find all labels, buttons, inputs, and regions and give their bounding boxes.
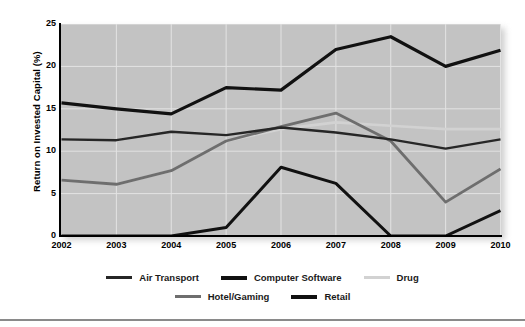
legend-label: Air Transport [139,272,199,283]
chart-svg [61,24,501,236]
legend-item[interactable]: Drug [364,272,419,283]
legend-item[interactable]: Retail [291,291,350,302]
legend-swatch [291,295,317,299]
x-tick-label: 2007 [313,240,359,250]
y-tick-label: 15 [20,103,56,113]
y-tick-label: 20 [20,60,56,70]
legend-item[interactable]: Hotel/Gaming [175,291,270,302]
x-tick-label: 2008 [368,240,414,250]
legend-swatch [106,276,132,279]
legend-row-2: Hotel/GamingRetail [0,287,525,306]
legend-item[interactable]: Computer Software [221,272,342,283]
legend-label: Drug [397,272,419,283]
legend-label: Retail [324,291,350,302]
x-tick-label: 2006 [258,240,304,250]
x-axis-spine [59,235,502,237]
legend-label: Hotel/Gaming [208,291,270,302]
bottom-divider [0,319,525,321]
y-tick-label: 10 [20,145,56,155]
legend-swatch [364,276,390,279]
plot-area [61,24,501,236]
x-tick-label: 2009 [423,240,469,250]
x-axis-tick-labels: 200220032004200520062007200820092010 [61,240,501,254]
legend-item[interactable]: Air Transport [106,272,199,283]
y-axis-spine [59,23,61,237]
plot-canvas [61,24,501,236]
legend-swatch [175,295,201,298]
x-tick-label: 2005 [203,240,249,250]
y-tick-label: 0 [20,230,56,240]
legend-swatch [221,276,247,280]
x-tick-label: 2004 [148,240,194,250]
chart-legend: Air TransportComputer SoftwareDrug Hotel… [0,268,525,306]
x-tick-label: 2003 [93,240,139,250]
x-tick-label: 2002 [39,240,85,250]
x-tick-label: 2010 [478,240,524,250]
chart-figure: Return on Invested Capital (%) 252015105… [0,0,525,327]
y-tick-label: 5 [20,188,56,198]
y-tick-label: 25 [20,18,56,28]
legend-label: Computer Software [254,272,342,283]
legend-row-1: Air TransportComputer SoftwareDrug [0,268,525,287]
